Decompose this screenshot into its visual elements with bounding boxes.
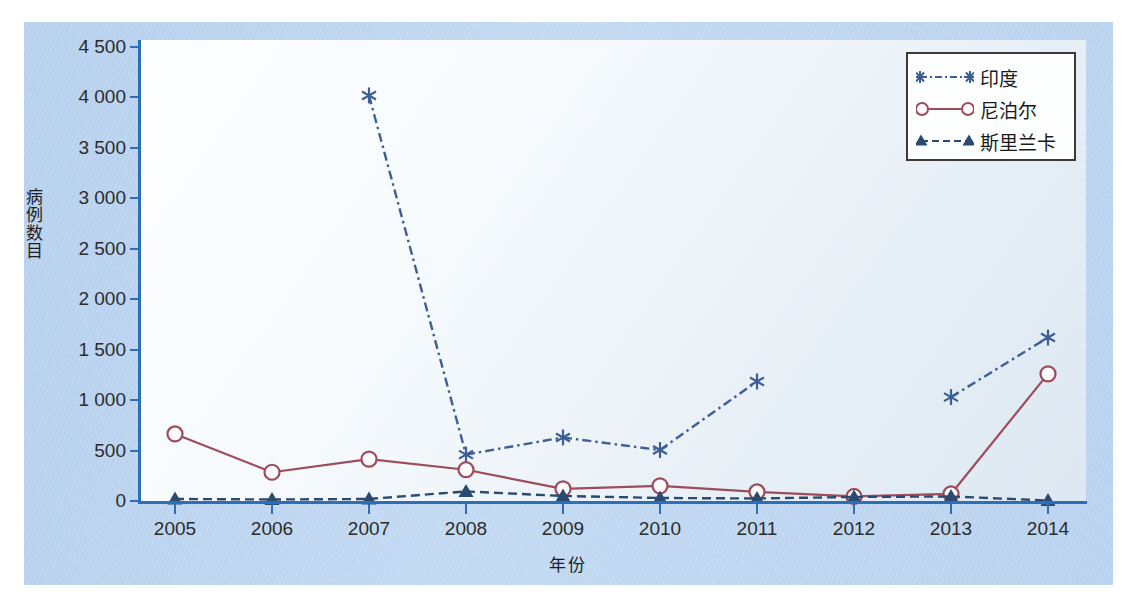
legend-marker-srilanka <box>916 131 974 151</box>
series-segment <box>854 496 951 497</box>
y-tick-label: 3 000 <box>78 187 126 209</box>
legend-marker-india <box>916 67 974 87</box>
y-tick <box>130 248 139 250</box>
x-tick <box>562 503 564 514</box>
series-segment <box>272 499 369 500</box>
legend-label-nepal: 尼泊尔 <box>980 96 1037 123</box>
chart-legend: 印度 尼泊尔 斯里兰卡 <box>906 52 1076 161</box>
x-tick <box>853 503 855 514</box>
y-axis-line <box>138 40 141 504</box>
series-segment <box>369 459 466 470</box>
data-point <box>459 484 474 497</box>
x-axis-line <box>138 501 1087 504</box>
x-tick-label: 2011 <box>717 518 797 540</box>
y-axis-title: 病例数目 <box>20 188 45 260</box>
series-segment <box>660 381 757 450</box>
x-tick-label: 2008 <box>426 518 506 540</box>
series-segment <box>466 437 563 454</box>
legend-label-india: 印度 <box>980 64 1018 91</box>
y-tick <box>130 399 139 401</box>
x-tick-label: 2005 <box>135 518 215 540</box>
y-tick-label: 1 000 <box>78 389 126 411</box>
x-tick <box>659 503 661 514</box>
data-point <box>1041 366 1056 381</box>
series-segment <box>563 496 660 498</box>
legend-label-srilanka: 斯里兰卡 <box>980 128 1056 155</box>
data-point <box>1041 330 1055 346</box>
data-point <box>459 462 474 477</box>
x-tick-label: 2012 <box>814 518 894 540</box>
series-segment <box>951 338 1048 398</box>
x-tick <box>1047 503 1049 514</box>
data-point <box>168 426 183 441</box>
series-segment <box>563 486 660 489</box>
y-tick-label: 4 500 <box>78 36 126 58</box>
y-tick-label: 2 000 <box>78 288 126 310</box>
x-tick-label: 2007 <box>329 518 409 540</box>
y-tick-label: 0 <box>115 490 126 512</box>
y-tick <box>130 197 139 199</box>
y-axis-tick-labels: 05001 0001 5002 0002 5003 0003 5004 0004… <box>0 0 126 612</box>
x-tick <box>174 503 176 514</box>
x-tick-label: 2009 <box>523 518 603 540</box>
x-tick-label: 2013 <box>911 518 991 540</box>
y-tick <box>130 298 139 300</box>
series-segment <box>369 491 466 499</box>
series-segment <box>660 498 757 499</box>
series-segment <box>757 492 854 497</box>
data-point <box>265 465 280 480</box>
series-segment <box>757 497 854 499</box>
series-segment <box>369 95 466 454</box>
y-tick-label: 3 500 <box>78 137 126 159</box>
x-tick <box>756 503 758 514</box>
chart-figure: 05001 0001 5002 0002 5003 0003 5004 0004… <box>0 0 1136 612</box>
series-segment <box>175 434 272 472</box>
x-tick <box>465 503 467 514</box>
legend-item-srilanka[interactable]: 斯里兰卡 <box>916 125 1066 157</box>
data-point <box>362 87 376 103</box>
data-point <box>362 452 377 467</box>
y-tick <box>130 96 139 98</box>
series-nepal <box>168 366 1056 504</box>
x-tick-label: 2010 <box>620 518 700 540</box>
legend-marker-nepal <box>916 99 974 119</box>
series-segment <box>951 496 1048 500</box>
y-tick <box>130 450 139 452</box>
x-tick-label: 2014 <box>1008 518 1088 540</box>
series-segment <box>466 491 563 496</box>
legend-item-nepal[interactable]: 尼泊尔 <box>916 93 1066 125</box>
x-tick <box>271 503 273 514</box>
y-tick <box>130 147 139 149</box>
x-tick-label: 2006 <box>232 518 312 540</box>
y-tick <box>130 46 139 48</box>
legend-item-india[interactable]: 印度 <box>916 61 1066 93</box>
series-segment <box>951 374 1048 494</box>
x-axis-title: 年份 <box>0 551 1136 576</box>
x-tick <box>368 503 370 514</box>
series-segment <box>466 470 563 489</box>
data-point <box>944 389 958 405</box>
data-point <box>750 373 764 389</box>
y-tick-label: 4 000 <box>78 86 126 108</box>
x-tick <box>950 503 952 514</box>
y-tick <box>130 500 139 502</box>
series-segment <box>272 459 369 472</box>
series-segment <box>175 499 272 500</box>
series-segment <box>660 486 757 492</box>
series-segment <box>563 437 660 450</box>
y-tick-label: 1 500 <box>78 339 126 361</box>
y-tick <box>130 349 139 351</box>
y-tick-label: 500 <box>94 440 126 462</box>
y-tick-label: 2 500 <box>78 238 126 260</box>
